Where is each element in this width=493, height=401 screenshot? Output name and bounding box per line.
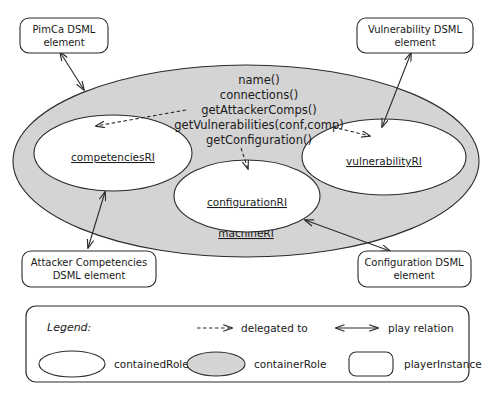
vulnerability-label-line2: element [394, 37, 435, 48]
diagram-canvas: machineRI competenciesRI vulnerabilityRI… [0, 0, 493, 401]
legend-play-label: play relation [388, 322, 454, 334]
contained-role-competenciesri[interactable]: competenciesRI [34, 115, 192, 191]
role-model-diagram: machineRI competenciesRI vulnerabilityRI… [0, 0, 493, 401]
legend-container-label: containerRole [254, 358, 326, 370]
vulnerabilityri-label: vulnerabilityRI [346, 155, 422, 167]
player-instance-attacker-competencies[interactable]: Attacker Competencies DSML element [22, 251, 156, 287]
legend-delegated-label: delegated to [241, 322, 308, 334]
competenciesri-label: competenciesRI [71, 151, 155, 163]
configuration-label-line1: Configuration DSML [364, 257, 464, 268]
legend: Legend: delegated to play relation conta… [26, 306, 482, 382]
method-getconfiguration: getConfiguration() [206, 133, 312, 147]
pimca-label-line1: PimCa DSML [33, 24, 96, 35]
legend-contained-label: containedRole [114, 358, 189, 370]
method-connections: connections() [220, 88, 298, 102]
legend-player-label: playerInstance [404, 358, 482, 370]
method-getattackercomps: getAttackerComps() [201, 103, 317, 117]
pimca-label-line2: element [43, 37, 84, 48]
configurationri-label: configurationRI [207, 196, 287, 208]
vulnerability-label-line1: Vulnerability DSML [368, 24, 462, 35]
play-arrow-pimca [60, 52, 84, 90]
attacker-label-line1: Attacker Competencies [31, 257, 147, 268]
player-instance-pimca[interactable]: PimCa DSML element [20, 18, 108, 53]
contained-role-configurationri[interactable]: configurationRI [174, 160, 320, 232]
legend-title: Legend: [47, 321, 91, 334]
player-instance-vulnerability[interactable]: Vulnerability DSML element [357, 18, 473, 53]
player-instance-configuration[interactable]: Configuration DSML element [358, 251, 471, 287]
rounded-box-icon [349, 352, 393, 376]
white-ellipse-icon [39, 351, 105, 377]
method-name: name() [238, 73, 280, 87]
method-getvulnerabilities: getVulnerabilities(conf,comp) [174, 118, 343, 132]
configuration-label-line2: element [393, 270, 434, 281]
attacker-label-line2: DSML element [53, 270, 126, 281]
gray-ellipse-icon [187, 352, 245, 376]
